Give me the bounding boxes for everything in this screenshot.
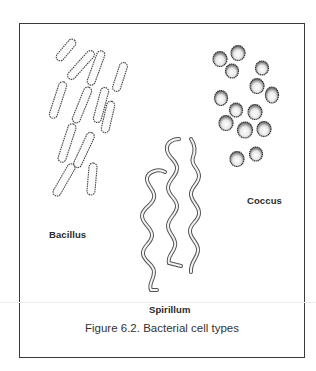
spirillum-label: Spirillum (149, 304, 191, 315)
bacteria-illustration (0, 0, 316, 371)
coccus-group (213, 46, 279, 167)
spirillum-group (142, 139, 199, 290)
coccus-label: Coccus (247, 195, 282, 206)
figure-caption: Figure 6.2. Bacterial cell types (19, 322, 305, 334)
bacillus-group (48, 37, 128, 197)
bacillus-label: Bacillus (49, 229, 86, 240)
